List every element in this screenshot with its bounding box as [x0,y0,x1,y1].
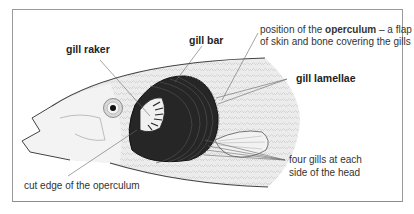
label-four-gills-line2: side of the head [289,167,360,179]
label-operculum-line2: of skin and bone covering the gills [260,36,411,48]
operculum-text-post: – a flap [376,24,412,35]
operculum-text-pre: position of the [260,24,325,35]
label-four-gills-line1: four gills at each [289,154,362,166]
label-gill-bar: gill bar [189,34,223,46]
operculum-text-bold: operculum [325,24,376,35]
label-gill-lamellae: gill lamellae [296,72,356,84]
label-cut-edge: cut edge of the operculum [24,180,140,192]
label-gill-raker: gill raker [66,43,110,55]
label-operculum: position of the operculum – a flap [260,24,412,36]
fish-eye [104,99,123,118]
